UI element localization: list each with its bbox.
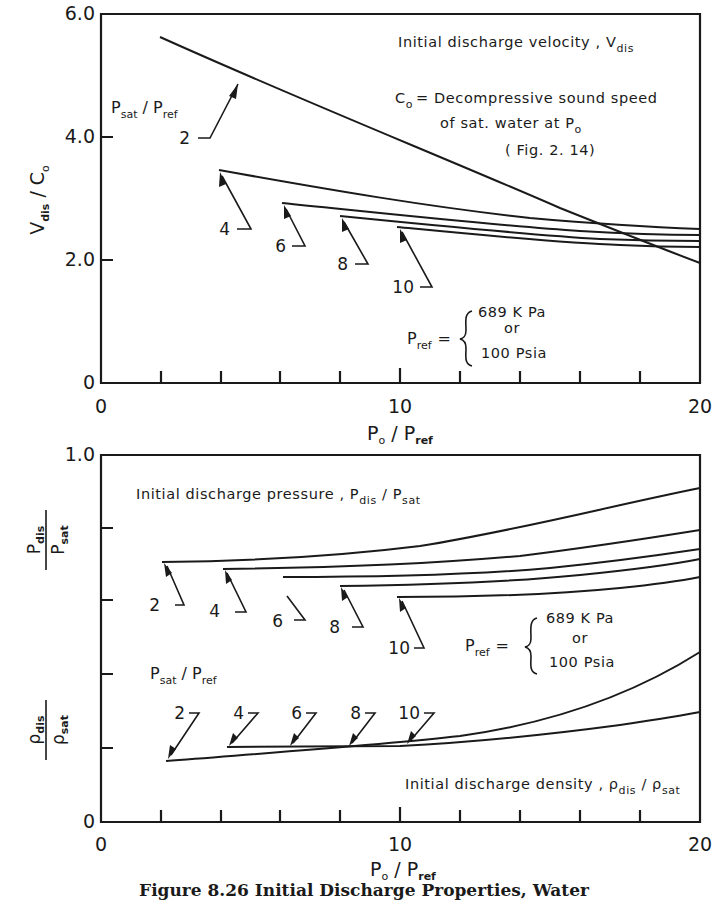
- pref-brace-bottom: [525, 618, 537, 674]
- bottom-y-label-density: ρdis ρsat: [24, 700, 71, 760]
- bottom-param-label: Psat / Pref: [150, 664, 218, 687]
- curve-label-6: 6: [275, 236, 286, 256]
- figure-caption: Figure 8.26 Initial Discharge Properties…: [0, 880, 728, 900]
- y-tick-6: 6.0: [65, 2, 95, 24]
- svg-text:Psat: Psat: [48, 525, 71, 555]
- d-label-6: 6: [291, 703, 302, 723]
- y-tick-0b: 0: [83, 810, 95, 832]
- d-label-4: 4: [233, 703, 244, 723]
- arrowhead-icon: [168, 745, 176, 759]
- y-tick-2: 2.0: [65, 248, 95, 270]
- bottom-y-label-pressure: Pdis Psat: [24, 510, 71, 570]
- arrowhead-icon: [399, 598, 406, 612]
- svg-text:ρdis: ρdis: [24, 715, 47, 744]
- arrowhead-icon: [290, 733, 299, 746]
- c0-definition-line2: of sat. water at Po: [440, 115, 582, 136]
- arrowhead-icon: [349, 733, 358, 746]
- bottom-pref-psia: 100 Psia: [549, 654, 615, 670]
- curve-label-8: 8: [337, 254, 348, 274]
- top-pref-kpa: 689 K Pa: [478, 304, 546, 320]
- bottom-pref-label: Pref=: [465, 636, 509, 659]
- c0-definition: Co= Decompressive sound speed: [395, 90, 658, 111]
- x-tick-20: 20: [688, 395, 712, 417]
- velocity-curve-8: [340, 216, 700, 241]
- d-label-10: 10: [398, 703, 420, 723]
- bottom-pref-or: or: [572, 630, 588, 646]
- arrowhead-icon: [229, 733, 238, 746]
- x-tick-10: 10: [388, 395, 412, 417]
- top-param-label: Psat / Pref: [111, 98, 179, 121]
- figure-canvas: 6.0 4.0 2.0 0 0 10 20 Po / Pref Vdis / C…: [0, 0, 728, 900]
- bottom-y-ticks: [101, 528, 113, 748]
- pressure-curve-8: [340, 559, 700, 586]
- y-tick-0: 0: [83, 371, 95, 393]
- svg-text:Pdis: Pdis: [24, 525, 47, 554]
- d-label-8: 8: [350, 703, 361, 723]
- velocity-curve-10: [397, 227, 700, 247]
- p-leader-6: [287, 596, 305, 620]
- top-y-axis-label: Vdis / Co: [26, 165, 52, 235]
- arrowhead-icon: [229, 84, 238, 99]
- top-x-axis-label: Po / Pref: [367, 422, 433, 447]
- arrowhead-icon: [219, 172, 226, 187]
- x-tick-0b: 0: [95, 833, 107, 855]
- p-label-4: 4: [209, 601, 220, 621]
- x-tick-0: 0: [95, 395, 107, 417]
- top-x-ticks: [161, 368, 640, 383]
- pressure-curve-10: [397, 577, 700, 597]
- x-tick-10b: 10: [388, 833, 412, 855]
- p-label-10: 10: [388, 638, 410, 658]
- y-tick-4: 4.0: [65, 125, 95, 147]
- pressure-curve-4: [223, 530, 700, 569]
- top-pref-psia: 100 Psia: [481, 345, 547, 361]
- bottom-pref-kpa: 689 K Pa: [546, 610, 614, 626]
- curve-label-2: 2: [179, 128, 190, 148]
- density-title: Initial discharge density , ρdis / ρsat: [405, 776, 681, 797]
- svg-text:ρsat: ρsat: [48, 715, 71, 745]
- p-label-6: 6: [272, 611, 283, 631]
- top-pref-or: or: [504, 320, 520, 336]
- top-plot-frame: [101, 14, 700, 383]
- arrowhead-icon: [407, 731, 416, 744]
- velocity-title: Initial discharge velocity , Vdis: [398, 34, 634, 55]
- x-tick-20b: 20: [688, 833, 712, 855]
- y-tick-1: 1.0: [65, 443, 95, 465]
- curve-label-10: 10: [392, 277, 414, 297]
- p-label-2: 2: [149, 595, 160, 615]
- d-label-2: 2: [174, 703, 185, 723]
- pref-brace-top: [460, 311, 472, 366]
- top-pref-label: Pref=: [407, 329, 451, 352]
- bottom-x-ticks: [161, 807, 640, 822]
- c0-reference: ( Fig. 2. 14): [505, 142, 595, 158]
- curve-label-4: 4: [219, 219, 230, 239]
- top-y-ticks: [101, 137, 113, 260]
- p-label-8: 8: [329, 617, 340, 637]
- pressure-title: Initial discharge pressure , Pdis / Psat: [136, 486, 421, 507]
